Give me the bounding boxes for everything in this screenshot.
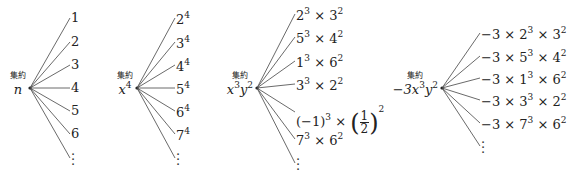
leaf-node: 6 (71, 127, 79, 140)
leaf-node: 44 (176, 58, 190, 73)
leaf-node: 24 (176, 11, 190, 26)
root-expression: x4 (118, 82, 131, 97)
root-expression: x3y2 (227, 82, 253, 97)
root-node: 集約n (10, 72, 26, 97)
leaf-node: 64 (176, 104, 190, 119)
leaf-node: 3 (71, 58, 79, 71)
leaf-node: 33 × 22 (296, 77, 343, 92)
leaf-node: −3 × 53 × 42 (481, 49, 567, 64)
root-expression: −3x3y2 (393, 82, 438, 97)
vertical-ellipsis: ··· (71, 152, 75, 167)
leaf-node: 13 × 62 (296, 54, 343, 69)
leaf-node: 54 (176, 81, 190, 96)
leaf-node: 23 × 32 (296, 7, 343, 22)
leaf-node: 4 (71, 81, 79, 94)
leaf-node: 1 (71, 11, 79, 24)
aggregate-tag: 集約 (117, 72, 133, 80)
leaf-node: 2 (71, 35, 79, 48)
leaf-node: −3 × 33 × 22 (481, 93, 567, 108)
leaf-node: −3 × 23 × 32 (481, 26, 567, 41)
vertical-ellipsis: ··· (296, 157, 300, 172)
leaf-node: 74 (176, 127, 190, 142)
leaf-node: 34 (176, 35, 190, 50)
leaf-node: 53 × 42 (296, 30, 343, 45)
root-expression: n (14, 82, 22, 97)
root-node: 集約−3x3y2 (393, 72, 438, 97)
leaf-node: 5 (71, 104, 79, 117)
aggregate-tag: 集約 (227, 72, 253, 80)
vertical-ellipsis: ··· (176, 152, 180, 167)
leaf-node: −3 × 13 × 62 (481, 71, 567, 86)
aggregate-tag: 集約 (10, 72, 26, 80)
root-node: 集約x4 (117, 72, 133, 97)
leaf-node: 73 × 62 (296, 132, 343, 147)
aggregate-tag: 集約 (393, 72, 438, 80)
root-node: 集約x3y2 (227, 72, 253, 97)
leaf-node: −3 × 73 × 62 (481, 116, 567, 131)
vertical-ellipsis: ··· (481, 140, 485, 155)
